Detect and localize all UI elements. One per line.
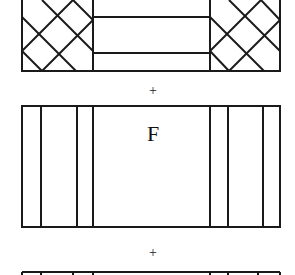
plus-operator-1: + [149,83,157,98]
left-cross-hatch [22,0,93,71]
panel-label-f: F [147,121,159,146]
middle-panel: F [22,106,280,227]
decomposition-diagram: + F + [0,0,295,275]
top-panel [22,0,280,71]
plus-operator-2: + [149,245,157,260]
top-panel-frame [22,0,280,71]
right-cross-hatch [210,0,280,71]
